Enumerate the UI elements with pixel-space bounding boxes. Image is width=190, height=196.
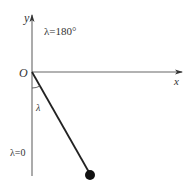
- pendulum-rod: [32, 72, 90, 174]
- x-axis-label: x: [173, 75, 179, 87]
- bottom-angle-label: λ=0: [10, 147, 26, 158]
- pendulum-diagram: y O x λ=180° λ λ=0: [0, 0, 190, 196]
- top-angle-label: λ=180°: [44, 25, 76, 37]
- pendulum-bob: [85, 170, 95, 180]
- origin-label: O: [19, 66, 28, 80]
- y-axis-label: y: [23, 11, 30, 25]
- angle-symbol-label: λ: [35, 102, 41, 113]
- angle-arc: [32, 86, 40, 88]
